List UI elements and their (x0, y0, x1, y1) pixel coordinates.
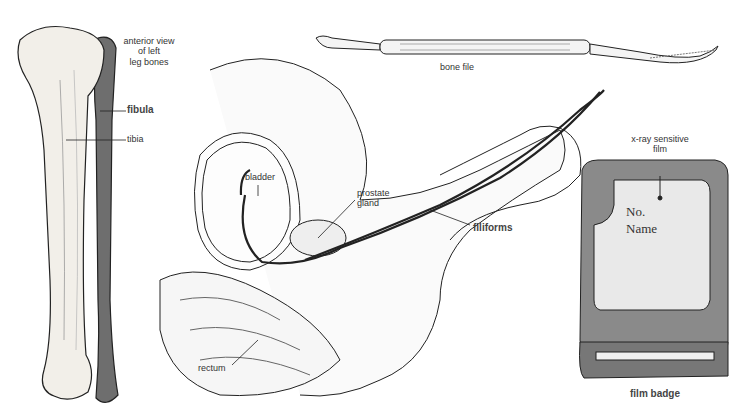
label-line: prostate (357, 188, 390, 198)
label-line: film (622, 144, 698, 154)
film-number-field: No. (626, 204, 657, 221)
rectum-label: rectum (198, 363, 226, 373)
caption-line: of left (118, 46, 180, 56)
fibula-label: fibula (127, 104, 154, 116)
leg-bones-drawing (18, 27, 126, 403)
bone-file-caption: bone file (440, 62, 474, 72)
film-badge-caption: film badge (630, 388, 680, 400)
label-line: gland (357, 198, 390, 208)
bladder-label: bladder (245, 172, 275, 182)
film-name-field: Name (626, 221, 657, 238)
pelvic-section-drawing (160, 59, 604, 396)
prostate-gland-label: prostate gland (357, 188, 390, 209)
label-line: x-ray sensitive (622, 134, 698, 144)
caption-line: anterior view (118, 36, 180, 46)
leg-bones-caption: anterior view of left leg bones (118, 36, 180, 67)
film-badge-drawing (580, 160, 729, 378)
film-text: No. Name (626, 204, 657, 238)
tibia-label: tibia (127, 134, 144, 144)
caption-line: leg bones (118, 57, 180, 67)
bone-file-drawing (316, 36, 718, 63)
xray-film-label: x-ray sensitive film (622, 134, 698, 155)
filiforms-label: filiforms (473, 222, 512, 234)
